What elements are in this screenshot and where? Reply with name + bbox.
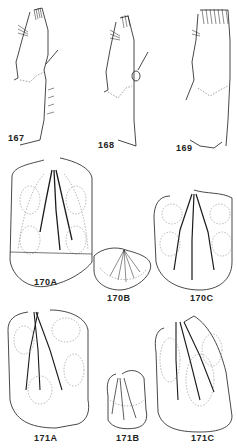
drawing-171B (107, 371, 146, 429)
drawing-171C (155, 316, 232, 432)
label-170A: 170A (34, 277, 58, 287)
line-drawings (0, 0, 237, 448)
label-169: 169 (176, 143, 193, 153)
drawing-171A (8, 310, 89, 428)
drawing-170A (10, 158, 92, 287)
label-171B: 171B (116, 433, 140, 443)
drawing-169 (186, 9, 230, 148)
label-170B: 170B (107, 293, 131, 303)
drawing-170B (94, 248, 151, 290)
drawing-167 (14, 8, 58, 145)
label-171A: 171A (34, 433, 58, 443)
drawing-170C (154, 190, 232, 290)
label-168: 168 (98, 140, 115, 150)
figure-plate: 167 168 169 170A 170B 170C 171A 171B 171… (0, 0, 237, 448)
label-170C: 170C (190, 293, 214, 303)
label-167: 167 (8, 133, 25, 143)
drawing-168 (104, 15, 148, 146)
label-171C: 171C (191, 433, 215, 443)
